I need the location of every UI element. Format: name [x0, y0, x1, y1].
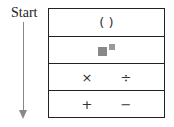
start-label: Start: [11, 5, 37, 21]
row-parentheses: ( ): [49, 9, 164, 37]
multiply-symbol: ×: [82, 70, 93, 85]
row-add-subtract: + −: [49, 91, 164, 117]
divide-symbol: ÷: [121, 70, 132, 85]
plus-symbol: +: [82, 97, 93, 112]
row-exponents: [49, 37, 164, 64]
operations-table: ( ) × ÷ + −: [48, 8, 165, 118]
base-square: [98, 47, 107, 56]
direction-arrow: [23, 22, 24, 116]
minus-symbol: −: [121, 97, 132, 112]
row-multiply-divide: × ÷: [49, 64, 164, 91]
power-square: [109, 44, 115, 50]
parentheses-symbol: ( ): [99, 15, 113, 30]
exponent-icon: [96, 42, 118, 58]
arrow-head-icon: [19, 110, 27, 119]
